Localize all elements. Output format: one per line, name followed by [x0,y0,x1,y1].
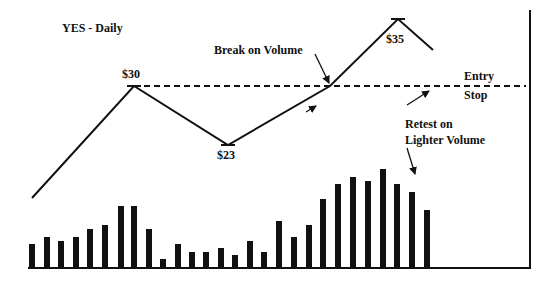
volume-bar [424,210,430,267]
volume-bar [102,225,108,267]
volume-bar [380,169,386,267]
volume-bar [189,252,195,267]
volume-bar [232,255,238,267]
volume-bar [131,206,137,267]
volume-bar [118,206,124,267]
volume-arrow-icon [407,148,415,174]
volume-bar [261,252,267,267]
price-label-23: $23 [217,149,235,162]
price-label-35: $35 [386,33,404,46]
volume-bar [350,177,356,267]
volume-bar [276,221,282,267]
volume-bar [394,184,400,267]
price-label-30: $30 [122,68,140,81]
chart-title: YES - Daily [62,22,123,35]
volume-bar [44,237,50,267]
volume-bars [29,169,430,267]
volume-bar [203,252,209,267]
break-on-volume-label: Break on Volume [214,44,302,57]
volume-bar [160,259,166,267]
break-arrow-icon [315,54,329,83]
volume-bar [218,248,224,267]
volume-bar [87,229,93,267]
volume-bar [306,225,312,267]
volume-bar [291,237,297,267]
price-volume-chart: YES - Daily $30 $23 $35 Break on Volume … [0,0,554,292]
stop-label: Stop [464,89,487,102]
volume-bar [58,241,64,267]
volume-bar [73,237,79,267]
volume-bar [409,192,415,267]
volume-bar [335,184,341,267]
entry-label: Entry [464,70,494,83]
retest-label-line1: Retest on [405,118,453,131]
retest-label-line2: Lighter Volume [405,134,485,147]
volume-bar [175,244,181,267]
volume-bar [247,241,253,267]
volume-bar [320,199,326,267]
volume-bar [365,181,371,267]
trend-arrow-icon [306,106,316,112]
volume-bar [146,229,152,267]
volume-bar [29,244,35,267]
retest-arrow-icon [407,91,429,105]
